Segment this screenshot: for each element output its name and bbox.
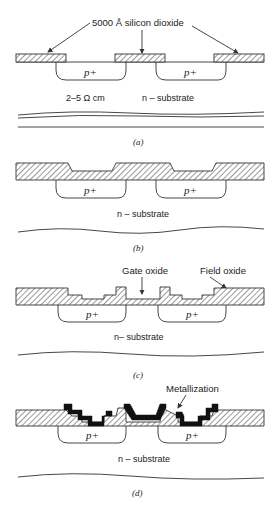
p-plus-label: p+ <box>83 184 97 196</box>
oxide-arrow-left <box>48 23 90 52</box>
metal-contact <box>124 404 166 420</box>
panel-c: Gate oxide Field oxide p+ p+ n– substrat… <box>16 265 264 380</box>
oxide-layer <box>16 163 264 180</box>
p-plus-label: p+ <box>85 308 99 320</box>
oxide-block <box>115 54 165 62</box>
p-plus-label: p+ <box>185 308 199 320</box>
pmos-fabrication-diagram: 5000 Å silicon dioxide p+ p+ 2–5 Ω cm n … <box>0 0 280 508</box>
p-plus-label: p+ <box>85 429 99 441</box>
substrate-label: n – substrate <box>118 454 170 464</box>
caption-d: (d) <box>132 488 143 498</box>
substrate-label: n – substrate <box>142 93 194 103</box>
p-plus-label: p+ <box>183 184 197 196</box>
p-plus-label: p+ <box>185 429 199 441</box>
oxide-label: 5000 Å silicon dioxide <box>92 17 184 28</box>
caption-a: (a) <box>133 137 144 147</box>
oxide-block <box>16 54 66 62</box>
p-plus-label: p+ <box>183 66 197 78</box>
substrate-label: n – substrate <box>117 209 169 219</box>
oxide-arrow-right <box>192 26 238 53</box>
oxide-layer <box>16 287 264 305</box>
panel-b: p+ p+ n – substrate (b) <box>16 163 264 253</box>
metallization-label: Metallization <box>166 383 219 394</box>
panel-a: 5000 Å silicon dioxide p+ p+ 2–5 Ω cm n … <box>16 17 264 147</box>
panel-d: Metallization p+ p+ n – substrate (d) <box>16 383 264 498</box>
oxide-block <box>214 54 264 62</box>
gate-oxide-label: Gate oxide <box>122 265 168 276</box>
caption-b: (b) <box>133 243 144 253</box>
p-plus-label: p+ <box>83 66 97 78</box>
resistivity-label: 2–5 Ω cm <box>66 93 105 103</box>
substrate-label: n– substrate <box>114 332 164 342</box>
field-oxide-label: Field oxide <box>200 265 246 276</box>
caption-c: (c) <box>133 370 143 380</box>
